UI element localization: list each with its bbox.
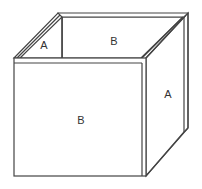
back-rim	[58, 13, 188, 17]
label-front: B	[77, 114, 84, 126]
label-back-left-inner: A	[40, 39, 48, 51]
label-right-side: A	[164, 88, 172, 100]
box-diagram: A B B A	[0, 0, 202, 189]
label-back-inner: B	[110, 35, 117, 47]
